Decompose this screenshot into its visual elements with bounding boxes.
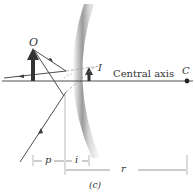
center-label: C — [182, 66, 190, 76]
incident-ray-2 — [34, 50, 64, 96]
reflected-ray-2 — [20, 92, 66, 162]
p-label: p — [45, 155, 51, 165]
panel-label: (c) — [89, 181, 101, 190]
central-axis-label: Central axis — [113, 69, 174, 79]
ray-diagram — [0, 0, 195, 195]
r-label: r — [121, 164, 126, 174]
object-label: O — [29, 37, 38, 48]
image-label: I — [98, 63, 102, 73]
virtual-ray-1 — [66, 66, 100, 71]
i-label: i — [75, 155, 78, 165]
object-arrowhead — [27, 48, 39, 60]
center-of-curvature-dot — [185, 79, 190, 84]
incident-ray-1 — [34, 50, 66, 71]
